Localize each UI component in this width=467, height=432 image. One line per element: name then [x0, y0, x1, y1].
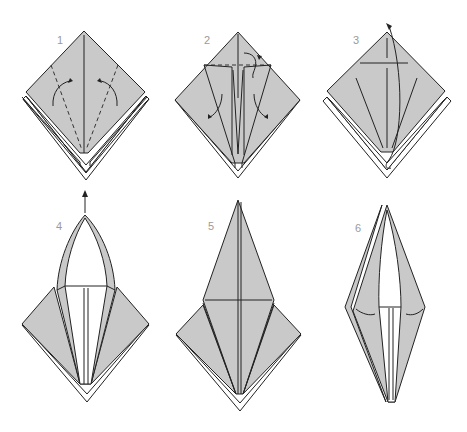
- diagram-figures: [0, 0, 467, 432]
- origami-diagram: 1 2 3 4 5 6: [0, 0, 467, 432]
- step-1-figure: [22, 31, 149, 180]
- step-3-figure: [323, 23, 451, 178]
- step-2-figure: [175, 32, 300, 178]
- step-6-figure: [345, 205, 425, 402]
- step-5-figure: [176, 200, 301, 411]
- step-4-figure: [22, 190, 149, 402]
